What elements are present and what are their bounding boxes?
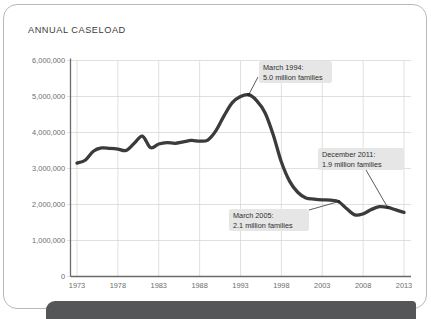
x-axis-tick-label: 1993	[232, 281, 248, 290]
annotation-label-line1: March 1994:	[263, 63, 304, 72]
annotation-label-line2: 2.1 million families	[233, 221, 293, 230]
y-axis-tick-labels: 6,000,0005,000,0004,000,0003,000,0002,00…	[32, 56, 65, 281]
x-axis-tick-label: 1978	[110, 281, 126, 290]
annotation-label-line1: March 2005:	[233, 211, 274, 220]
x-axis-tick-label: 1973	[69, 281, 85, 290]
y-axis-tick-label: 0	[61, 272, 65, 281]
annotation-leader-line	[249, 77, 258, 95]
annual-caseload-line-chart: 6,000,0005,000,0004,000,0003,000,0002,00…	[0, 0, 431, 319]
y-axis-tick-label: 5,000,000	[32, 92, 65, 101]
annotation-point-marker	[247, 93, 250, 96]
annotation-label-line2: 1.9 million families	[322, 160, 382, 169]
annotation-point-marker	[337, 200, 340, 203]
x-axis-tick-labels: 197319781983198819931998200320082013	[69, 281, 412, 290]
y-axis-tick-label: 2,000,000	[32, 200, 65, 209]
chart-plot-area: 6,000,0005,000,0004,000,0003,000,0002,00…	[0, 0, 431, 319]
y-axis-tick-label: 3,000,000	[32, 164, 65, 173]
annotation-leader-line	[366, 170, 388, 207]
y-axis-tick-label: 1,000,000	[32, 236, 65, 245]
annotation-label-line2: 5.0 million families	[263, 73, 323, 82]
y-axis-tick-label: 4,000,000	[32, 128, 65, 137]
annotation-label-line1: December 2011:	[322, 150, 375, 159]
x-axis-tick-label: 2013	[396, 281, 412, 290]
annotation-point-marker	[386, 206, 389, 209]
x-axis-tick-label: 2003	[314, 281, 330, 290]
y-axis-tick-label: 6,000,000	[32, 56, 65, 65]
x-axis-tick-label: 2008	[355, 281, 371, 290]
x-axis-tick-label: 1988	[191, 281, 207, 290]
x-axis-tick-label: 1998	[273, 281, 289, 290]
x-axis-tick-label: 1983	[151, 281, 167, 290]
annotation-march-1994: March 1994:5.0 million families	[247, 61, 332, 96]
footer-bar	[46, 301, 416, 319]
annotation-leader-line	[309, 202, 339, 210]
